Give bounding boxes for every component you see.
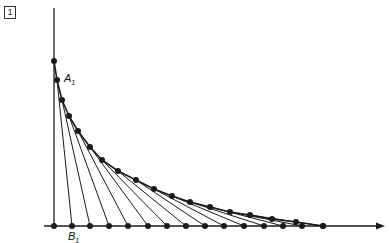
curve-dot: [99, 157, 105, 163]
curve-dot: [87, 144, 93, 150]
baseline-dot: [51, 223, 57, 229]
baseline-dot: [320, 223, 326, 229]
baseline-dot: [106, 223, 112, 229]
stitch-line: [69, 116, 109, 226]
label-b1-sub: 1: [75, 237, 79, 243]
curve-dot: [247, 212, 253, 218]
curve-dot: [51, 58, 57, 64]
curve-dot: [54, 77, 60, 83]
baseline-dot: [145, 223, 151, 229]
curve-dot: [59, 97, 65, 103]
label-b1: B1: [68, 230, 79, 243]
curve-dot: [269, 216, 275, 222]
curve-dot: [151, 186, 157, 192]
curve-dot: [133, 177, 139, 183]
label-a1-sub: 1: [71, 79, 75, 86]
baseline-dot: [280, 223, 286, 229]
stitch-line: [90, 147, 148, 226]
baseline-dot: [299, 223, 305, 229]
baseline-dot: [221, 223, 227, 229]
curve-dot: [187, 199, 193, 205]
baseline-dot: [87, 223, 93, 229]
baseline-dot: [241, 223, 247, 229]
curve-dot: [207, 204, 213, 210]
baseline-dot: [183, 223, 189, 229]
baseline-dot: [69, 223, 75, 229]
envelope-diagram: [0, 0, 389, 243]
baseline-dot: [125, 223, 131, 229]
stitch-line: [102, 160, 167, 226]
label-a1: A1: [64, 72, 75, 86]
baseline-dot: [202, 223, 208, 229]
curve-dot: [293, 219, 299, 225]
curve-dot: [115, 168, 121, 174]
curve-dot: [169, 193, 175, 199]
curve-dot: [75, 128, 81, 134]
stitch-line: [57, 80, 72, 226]
baseline-dot: [164, 223, 170, 229]
curve-dot: [66, 113, 72, 119]
curve-dot: [227, 209, 233, 215]
arrow-head-icon: [376, 223, 385, 230]
baseline-dot: [261, 223, 267, 229]
